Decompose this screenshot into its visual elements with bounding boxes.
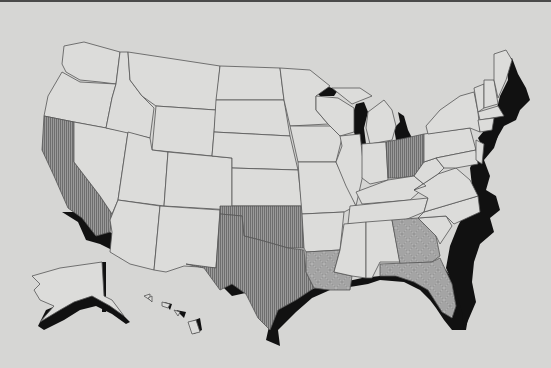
state-northdakota[interactable] [216,66,284,100]
state-kansas[interactable] [232,168,302,206]
state-iowa[interactable] [290,126,342,162]
states [42,42,512,330]
state-wyoming[interactable] [152,106,216,156]
state-arkansas[interactable] [302,212,344,252]
us-map [0,0,551,368]
state-arizona[interactable] [110,200,160,270]
state-southdakota[interactable] [214,100,290,136]
state-newmexico[interactable] [154,206,220,272]
state-colorado[interactable] [164,152,232,210]
state-newyork[interactable] [426,92,480,134]
state-hawaii[interactable] [144,294,200,334]
state-indiana[interactable] [362,142,388,184]
state-connecticut[interactable] [478,118,494,132]
